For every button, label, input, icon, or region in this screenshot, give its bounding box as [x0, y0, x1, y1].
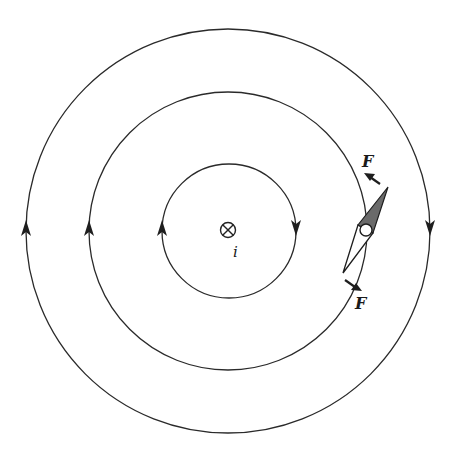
lower-force-label: F [354, 294, 368, 313]
upper-force-arrow-icon [364, 173, 380, 184]
upper-force-label: F [361, 152, 375, 171]
wire-into-page-icon [221, 223, 236, 238]
compass-needle-icon [343, 187, 388, 273]
magnetic-field-diagram: i F F [0, 0, 452, 456]
current-label: i [233, 243, 238, 261]
lower-force-arrow-icon [345, 280, 362, 291]
